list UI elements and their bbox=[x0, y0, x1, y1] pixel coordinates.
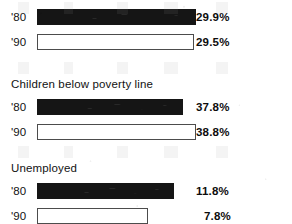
chart-group-1: Children below poverty line '80 37.8% '9… bbox=[0, 78, 292, 142]
bar-value-1990: 38.8% bbox=[196, 125, 272, 139]
bar-1980 bbox=[37, 183, 174, 199]
grouped-bar-chart: '80 29.9% '90 29.5% Children below pover… bbox=[0, 0, 292, 224]
bar-row-label-1990: '90 bbox=[11, 35, 33, 49]
bar-row-1980: '80 11.8% bbox=[0, 182, 292, 200]
bar-1990 bbox=[37, 208, 148, 224]
bar-row-1990: '90 38.8% bbox=[0, 123, 292, 141]
bar-value-1980: 11.8% bbox=[196, 184, 272, 198]
bar-row-label-1990: '90 bbox=[11, 125, 33, 139]
chart-group-1-title: Children below poverty line bbox=[11, 78, 153, 91]
scan-ghost-text-top bbox=[0, 2, 292, 14]
bar-row-1990: '90 29.5% bbox=[0, 33, 292, 51]
bar-row-label-1990: '90 bbox=[11, 209, 33, 223]
bar-value-1990: 7.8% bbox=[196, 209, 272, 223]
chart-group-2-title: Unemployed bbox=[11, 162, 77, 175]
scan-ghost-text-lower bbox=[0, 146, 292, 158]
bar-1990 bbox=[37, 124, 196, 140]
bar-row-label-1980: '80 bbox=[11, 100, 33, 114]
bar-1980 bbox=[37, 99, 183, 115]
scan-ghost-text-mid bbox=[0, 62, 292, 74]
bar-value-1990: 29.5% bbox=[196, 35, 272, 49]
chart-group-2: Unemployed '80 11.8% '90 7.8% bbox=[0, 162, 292, 224]
bar-1990 bbox=[37, 34, 194, 50]
bar-row-label-1980: '80 bbox=[11, 184, 33, 198]
bar-row-1980: '80 37.8% bbox=[0, 98, 292, 116]
bar-row-1990: '90 7.8% bbox=[0, 207, 292, 224]
bar-value-1980: 37.8% bbox=[196, 100, 272, 114]
